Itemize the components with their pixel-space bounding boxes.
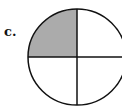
fraction-circle-diagram bbox=[0, 0, 122, 111]
shaded-quadrant bbox=[28, 9, 77, 57]
